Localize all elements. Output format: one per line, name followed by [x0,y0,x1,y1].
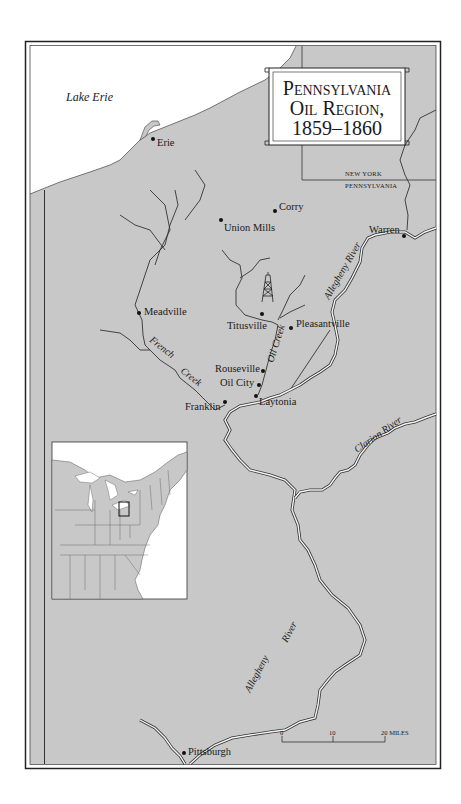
town-label-warren: Warren [369,224,400,235]
town-label-pittsburgh: Pittsburgh [188,746,232,757]
dot-pleasantville [289,326,293,330]
town-label-rouseville: Rouseville [215,363,260,374]
dot-corry [273,209,277,213]
town-label-pleasantville: Pleasantville [296,318,350,329]
town-label-union-mills: Union Mills [224,222,275,233]
title-line-2: Oil Region, [290,97,385,119]
lake-erie-label: Lake Erie [65,90,114,104]
town-label-corry: Corry [279,201,304,212]
scale-tick-10: 10 [329,729,336,736]
eastern-us-inset-map [52,442,187,599]
title-line-1: Pennsylvania [283,77,392,99]
title-cartouche: Pennsylvania Oil Region, 1859–1860 [265,68,409,145]
town-label-erie: Erie [157,137,175,148]
dot-erie [151,137,155,141]
town-label-franklin: Franklin [185,401,221,412]
dot-rouseville [261,369,265,373]
dot-laytonia [254,394,258,398]
dot-meadville [137,311,141,315]
dot-franklin [223,400,227,404]
dot-union-mills [219,218,223,222]
dot-oil-city [257,383,261,387]
dot-pittsburgh [182,751,186,755]
town-label-oil-city: Oil City [220,377,255,388]
scale-tick-0: 0 [280,729,283,736]
state-label-pennsylvania: PENNSYLVANIA [345,182,397,189]
state-label-new-york: NEW YORK [345,170,382,177]
dot-warren [402,234,406,238]
town-label-laytonia: Laytonia [259,396,297,407]
title-line-3: 1859–1860 [292,117,382,139]
town-label-meadville: Meadville [144,306,187,317]
dot-titusville [260,312,264,316]
town-label-titusville: Titusville [227,320,267,331]
pennsylvania-oil-region-map: NEW YORK PENNSYLVANIA Lake Erie [0,0,461,804]
scale-tick-20: 20 MILES [381,729,409,736]
